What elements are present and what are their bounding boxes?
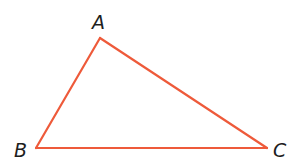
vertex-label-c: C	[273, 139, 287, 161]
vertex-label-b: B	[14, 139, 27, 161]
vertex-label-a: A	[90, 11, 105, 33]
triangle-diagram: A B C	[0, 0, 297, 165]
edge-ca	[100, 38, 267, 148]
edge-ab	[36, 38, 100, 148]
